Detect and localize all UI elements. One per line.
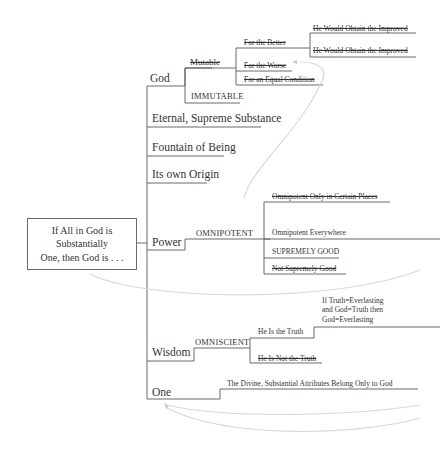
node-omniscient: OMNISCIENT <box>195 338 249 347</box>
curved-arrow-to-one-upper <box>167 405 420 414</box>
root-premise-box: If All in God is Substantially One, then… <box>27 218 137 270</box>
node-eternal-supreme-substance: Eternal, Supreme Substance <box>152 113 281 125</box>
arrowhead-worse-icon <box>292 60 297 64</box>
node-not-supremely-good: Not Supremely Good <box>272 265 336 273</box>
node-improved-1: He Would Obtain the Improved <box>313 25 408 33</box>
node-mutable: Mutable <box>190 58 220 67</box>
one-line <box>147 389 418 399</box>
node-god: God <box>150 73 170 85</box>
node-wisdom: Wisdom <box>152 347 191 359</box>
node-omnipotent-certain-places: Omnipotent Only in Certain Places <box>272 193 377 201</box>
node-omnipotent: OMNIPOTENT <box>196 229 253 238</box>
syllogism-line3: God=Everlasting <box>322 315 440 324</box>
node-for-the-worse: For the Worse <box>244 62 286 70</box>
syllogism-line <box>314 327 440 338</box>
node-one: One <box>152 387 171 399</box>
curved-line-under-power <box>90 270 420 295</box>
node-immutable: IMMUTABLE <box>191 92 244 101</box>
syllogism-line2: and God=Truth then <box>322 305 440 314</box>
node-syllogism: If Truth=Everlasting and God=Truth then … <box>322 296 440 324</box>
node-for-the-better: For the Better <box>244 39 286 47</box>
node-fountain-of-being: Fountain of Being <box>152 142 236 154</box>
node-supremely-good: SUPREMELY GOOD <box>272 248 339 256</box>
syllogism-line1: If Truth=Everlasting <box>322 296 440 305</box>
root-label-line1: If All in God is Substantially <box>28 224 136 251</box>
node-he-is-the-truth: He Is the Truth <box>258 328 303 336</box>
node-omnipotent-everywhere: Omnipotent Everywhere <box>272 229 346 237</box>
node-power: Power <box>152 237 181 249</box>
root-label-line2: One, then God is . . . <box>28 251 136 265</box>
node-he-is-not-the-truth: He Is Not the Truth <box>258 355 316 363</box>
node-divine-attributes-conclusion: The Divine, Substantial Attributes Belon… <box>227 380 392 388</box>
node-its-own-origin: Its own Origin <box>152 169 219 181</box>
node-for-an-equal-condition: For an Equal Condition <box>244 76 315 84</box>
node-improved-2: He Would Obtain the Improved <box>313 47 408 55</box>
